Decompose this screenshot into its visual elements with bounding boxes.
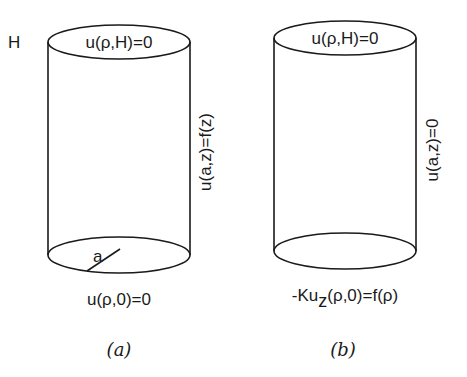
radius-label: a	[93, 247, 103, 266]
bottom-condition-b-subscript: z	[318, 291, 327, 311]
bottom-condition-b-suffix: (ρ,0)=f(ρ)	[327, 286, 398, 305]
height-label: H	[8, 33, 20, 52]
caption-a: (a)	[107, 339, 132, 360]
bottom-condition-b: -Kuz(ρ,0)=f(ρ)	[292, 286, 398, 311]
top-condition-a: u(ρ,H)=0	[86, 33, 153, 52]
cylinder-diagrams: a H u(ρ,H)=0 u(a,z)=f(z) u(ρ,0)=0 (a) u(…	[0, 0, 467, 377]
bottom-condition-b-prefix: -Ku	[292, 286, 318, 305]
radius-line	[87, 249, 120, 271]
figure-b: u(ρ,H)=0 u(a,z)=0 -Kuz(ρ,0)=f(ρ) (b)	[274, 21, 442, 360]
cylinder-a-bottom	[48, 237, 190, 273]
cylinder-b-bottom	[274, 233, 416, 269]
caption-b: (b)	[330, 339, 356, 360]
side-condition-b: u(a,z)=0	[423, 119, 442, 182]
side-condition-a: u(a,z)=f(z)	[196, 113, 215, 191]
bottom-condition-a: u(ρ,0)=0	[87, 290, 151, 309]
top-condition-b: u(ρ,H)=0	[312, 29, 379, 48]
figure-a: a H u(ρ,H)=0 u(a,z)=f(z) u(ρ,0)=0 (a)	[8, 25, 215, 360]
